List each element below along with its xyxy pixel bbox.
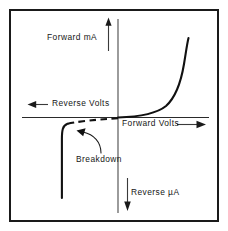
label-reverse-ua: Reverse µA — [131, 188, 179, 196]
diagram-root: Forward mA Reverse Volts Forward Volts B… — [0, 0, 228, 231]
forward-volts-arrow-head — [197, 121, 207, 128]
forward-volts-arrow — [177, 121, 206, 128]
forward-ma-arrow — [105, 18, 111, 52]
breakdown-curve — [62, 124, 68, 198]
reverse-volts-arrow — [28, 101, 49, 108]
breakdown-callout-arrow — [77, 128, 102, 153]
label-breakdown: Breakdown — [76, 155, 122, 163]
breakdown-callout-head — [77, 128, 86, 136]
label-reverse-volts: Reverse Volts — [52, 99, 110, 107]
reverse-ua-arrow — [124, 178, 131, 211]
reverse-volts-arrow-head — [28, 101, 37, 108]
forward-ma-arrow-head — [105, 18, 111, 26]
breakdown-callout-shaft — [83, 132, 101, 153]
forward-conduction-curve — [118, 38, 189, 118]
label-forward-volts: Forward Volts — [122, 119, 179, 127]
diagram-graphics — [0, 0, 228, 231]
reverse-ua-arrow-head — [124, 202, 131, 212]
reverse-leakage-curve — [68, 118, 119, 124]
label-forward-ma: Forward mA — [47, 33, 97, 41]
